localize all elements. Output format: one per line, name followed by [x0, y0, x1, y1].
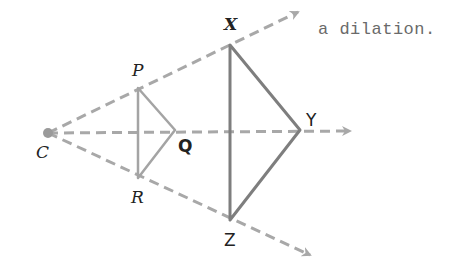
caption-text: a dilation. [318, 20, 436, 39]
label-R: R [131, 187, 144, 207]
dilation-diagram: C P Q R X Y Z a dilation. [0, 0, 453, 270]
label-Y: Y [306, 110, 316, 130]
label-Q: Q [178, 136, 192, 156]
center-point-C [43, 128, 53, 138]
label-Z: Z [224, 230, 236, 250]
ray-through-P-X [48, 12, 298, 133]
label-P: P [132, 60, 143, 80]
label-X: X [224, 14, 237, 34]
ray-through-Q-Y [48, 131, 350, 133]
label-C: C [36, 142, 49, 162]
